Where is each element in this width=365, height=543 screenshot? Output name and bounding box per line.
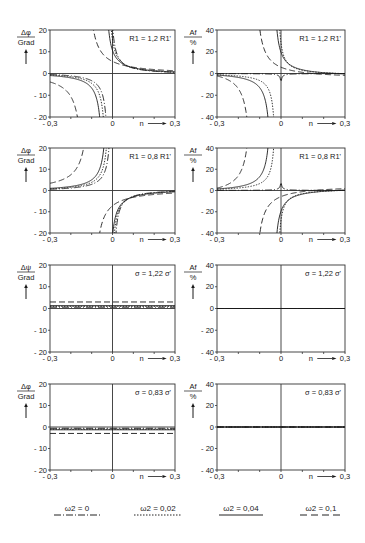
y-axis-label-den: Grad bbox=[18, 38, 35, 47]
x-tick-label: - 0,3 bbox=[209, 235, 224, 244]
y-axis-label-num: Δφ bbox=[21, 382, 31, 391]
series-dotted bbox=[111, 192, 175, 297]
x-tick-label: 0 bbox=[279, 354, 283, 363]
plot-annotation: R1 = 1,2 R1' bbox=[299, 34, 341, 43]
x-tick-label: - 0,3 bbox=[42, 354, 57, 363]
series-solid bbox=[217, 116, 272, 189]
x-tick-label: 0 bbox=[279, 119, 283, 128]
y-tick-label: 0 bbox=[210, 423, 214, 432]
x-tick-label: 0 bbox=[110, 235, 114, 244]
x-tick-label: 0,3 bbox=[170, 354, 180, 363]
plot-annotation: σ = 0,83 σ' bbox=[135, 388, 171, 397]
y-axis-label-num: Δφ bbox=[21, 28, 31, 37]
x-axis-label: n bbox=[309, 354, 313, 363]
x-tick-label: 0,3 bbox=[170, 119, 180, 128]
y-axis-label-num: Af bbox=[189, 146, 197, 155]
legend-label: ω2 = 0,04 bbox=[216, 504, 266, 513]
x-tick-label: - 0,3 bbox=[42, 119, 57, 128]
series-dotted bbox=[50, 75, 107, 182]
x-tick-label: 0 bbox=[110, 472, 114, 481]
y-axis-label-num: Δψ bbox=[21, 263, 31, 272]
y-axis-label-den: % bbox=[190, 156, 197, 165]
y-axis-label-den: % bbox=[190, 38, 197, 47]
x-axis-label: n bbox=[309, 119, 313, 128]
legend-item-omega-0-02: ω2 = 0,02 bbox=[132, 504, 184, 517]
chart-p4: 40200- 20- 40- 0,300,3nAf%R1 = 0,8 R1' bbox=[184, 116, 350, 265]
y-tick-label: 40 bbox=[206, 261, 214, 270]
y-tick-label: 40 bbox=[206, 26, 214, 35]
series-dashed bbox=[92, 193, 175, 297]
y-axis-label-num: Δφ bbox=[21, 146, 31, 155]
y-tick-label: 20 bbox=[206, 165, 214, 174]
x-tick-label: 0 bbox=[279, 472, 283, 481]
y-tick-label: - 20 bbox=[201, 326, 214, 335]
x-tick-label: 0 bbox=[110, 354, 114, 363]
chart-p8: 40200- 20- 40- 0,300,3nAf%σ = 0,83 σ' bbox=[184, 380, 350, 482]
y-tick-label: 10 bbox=[39, 401, 47, 410]
y-axis-label-den: % bbox=[190, 392, 197, 401]
x-tick-label: 0,3 bbox=[170, 235, 180, 244]
x-axis-label: n bbox=[309, 235, 313, 244]
chart-p5: 20100- 10- 20- 0,300,3nΔψGradσ = 1,22 σ' bbox=[17, 261, 180, 364]
series-dashed bbox=[50, 82, 85, 182]
y-tick-label: 20 bbox=[39, 261, 47, 270]
legend-label: ω2 = 0,02 bbox=[132, 504, 184, 513]
legend-item-omega-0: ω2 = 0 bbox=[52, 504, 102, 517]
y-tick-label: 0 bbox=[210, 186, 214, 195]
x-tick-label: 0,3 bbox=[170, 472, 180, 481]
y-tick-label: 20 bbox=[206, 47, 214, 56]
dashdot-line-icon bbox=[54, 513, 100, 517]
x-tick-label: - 0,3 bbox=[42, 235, 57, 244]
plot-annotation: R1 = 0,8 R1' bbox=[129, 152, 171, 161]
x-tick-label: 0 bbox=[110, 119, 114, 128]
solid-line-icon bbox=[219, 513, 263, 517]
y-tick-label: 20 bbox=[206, 282, 214, 291]
y-tick-label: 0 bbox=[43, 69, 47, 78]
x-tick-label: - 0,3 bbox=[209, 472, 224, 481]
x-axis-label: n bbox=[309, 472, 313, 481]
series-solid bbox=[109, 192, 175, 297]
x-axis-label: n bbox=[140, 235, 144, 244]
chart-p6: 40200- 20- 40- 0,300,3nAf%σ = 1,22 σ' bbox=[184, 261, 350, 364]
y-tick-label: 0 bbox=[43, 423, 47, 432]
y-tick-label: - 10 bbox=[34, 326, 47, 335]
y-tick-label: 40 bbox=[206, 144, 214, 153]
series-solid bbox=[273, 190, 345, 265]
x-axis-label: n bbox=[140, 354, 144, 363]
series-solid bbox=[50, 84, 108, 188]
x-tick-label: 0,3 bbox=[340, 235, 350, 244]
y-tick-label: - 20 bbox=[201, 444, 214, 453]
y-axis-label-num: Af bbox=[189, 28, 197, 37]
plot-annotation: σ = 1,22 σ' bbox=[305, 269, 341, 278]
y-tick-label: 0 bbox=[43, 304, 47, 313]
chart-p7: 20100- 10- 20- 0,300,3nΔφGradσ = 0,83 σ' bbox=[17, 380, 180, 482]
chart-p2: 40200- 20- 40- 0,300,3nAf%R1 = 1,2 R1' bbox=[184, 0, 350, 150]
y-axis-label-den: Grad bbox=[18, 273, 35, 282]
y-axis-label-den: Grad bbox=[18, 156, 35, 165]
x-tick-label: 0 bbox=[279, 235, 283, 244]
series-solid bbox=[50, 76, 104, 183]
plot-annotation: R1 = 0,8 R1' bbox=[299, 152, 341, 161]
x-tick-label: 0,3 bbox=[340, 119, 350, 128]
legend-label: ω2 = 0,1 bbox=[298, 504, 344, 513]
series-dashed bbox=[50, 84, 91, 183]
x-axis-label: n bbox=[140, 472, 144, 481]
y-tick-label: - 20 bbox=[201, 91, 214, 100]
y-tick-label: 0 bbox=[210, 304, 214, 313]
y-tick-label: - 20 bbox=[201, 207, 214, 216]
dotted-line-icon bbox=[134, 513, 182, 517]
dashed-line-icon bbox=[300, 513, 342, 517]
y-tick-label: 10 bbox=[39, 282, 47, 291]
y-axis-label-den: Grad bbox=[18, 392, 35, 401]
series-dashed bbox=[217, 76, 253, 150]
series-solid bbox=[217, 75, 272, 150]
y-tick-label: 20 bbox=[39, 380, 47, 389]
y-tick-label: 40 bbox=[206, 380, 214, 389]
y-tick-label: 0 bbox=[210, 69, 214, 78]
plot-annotation: R1 = 1,2 R1' bbox=[129, 34, 171, 43]
y-tick-label: - 10 bbox=[34, 207, 47, 216]
y-tick-label: - 10 bbox=[34, 444, 47, 453]
legend-label: ω2 = 0 bbox=[52, 504, 102, 513]
x-tick-label: - 0,3 bbox=[42, 472, 57, 481]
y-tick-label: 0 bbox=[43, 186, 47, 195]
